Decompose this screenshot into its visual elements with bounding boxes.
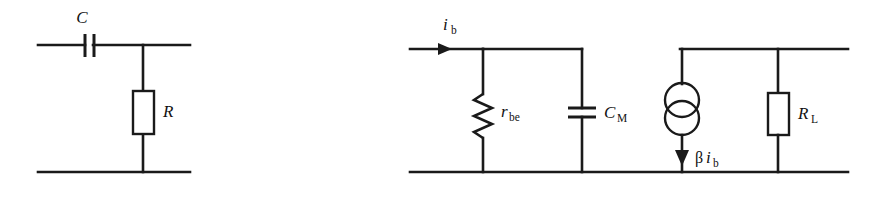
capacitor-CM-label: C: [604, 103, 616, 122]
resistor-R-body: [133, 91, 154, 134]
current-source-label-group: β i b: [695, 148, 719, 169]
resistor-rbe-label-subscript: be: [509, 111, 520, 123]
current-source-label-beta: β: [695, 149, 703, 167]
capacitor-CM: [568, 49, 596, 172]
resistor-rbe-label: r: [501, 102, 508, 121]
circuit-left-group: C R: [38, 8, 190, 172]
circuit-right-group: i b r be C M β i b R L: [410, 15, 848, 172]
resistor-rbe-label-group: r be: [501, 102, 520, 123]
resistor-R-label: R: [162, 102, 174, 121]
circuit-diagram-svg: C R: [0, 0, 884, 198]
input-current-arrow-icon: [438, 43, 452, 55]
capacitor-CM-label-group: C M: [604, 103, 627, 124]
figure-canvas: C R: [0, 0, 884, 198]
capacitor-C: [85, 34, 94, 57]
capacitor-CM-label-subscript: M: [617, 112, 627, 124]
input-current-label: i: [443, 15, 448, 34]
input-current-label-group: i b: [443, 15, 457, 36]
resistor-RL-label-group: R L: [797, 104, 818, 125]
input-current-label-subscript: b: [451, 24, 457, 36]
source-current-arrow-icon: [675, 150, 689, 166]
resistor-RL-label-subscript: L: [811, 113, 818, 125]
capacitor-C-label: C: [76, 8, 88, 27]
resistor-rbe: [474, 49, 492, 172]
resistor-RL-label: R: [797, 104, 809, 123]
current-source-label-current: i: [706, 148, 711, 167]
current-source-beta-ib: [665, 49, 699, 172]
resistor-RL: [768, 49, 789, 172]
current-source-label-subscript: b: [713, 157, 719, 169]
rbe-zigzag-body: [474, 94, 492, 138]
resistor-RL-body: [768, 93, 789, 135]
